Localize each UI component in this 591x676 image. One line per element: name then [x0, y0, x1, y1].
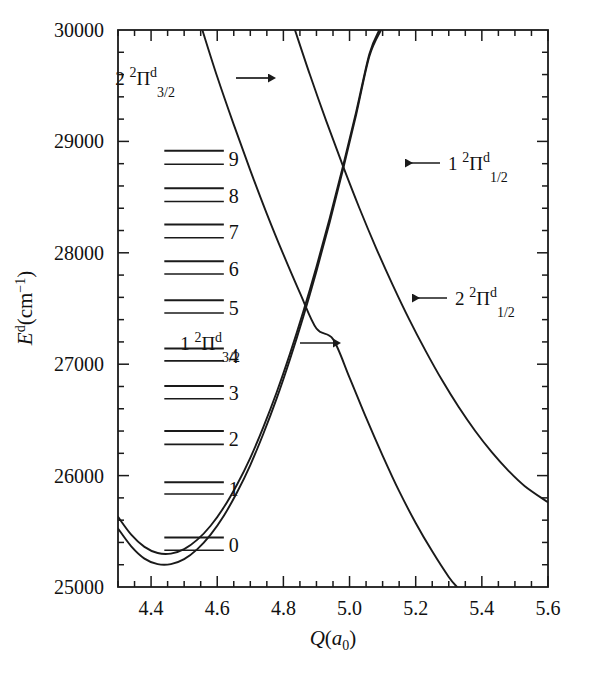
annotation-superscript-d: d — [483, 150, 490, 165]
x-axis-title-a: a — [332, 626, 343, 650]
annotation-pi-glyph: Π — [476, 288, 490, 309]
x-axis-title-paren-open: ( — [325, 626, 332, 650]
x-tick-label: 5.2 — [403, 597, 428, 619]
y-tick-label: 25000 — [54, 576, 104, 598]
vibrational-level-label: 8 — [229, 185, 239, 207]
vibrational-level-label: 6 — [229, 258, 239, 280]
x-tick-label: 5.4 — [469, 597, 494, 619]
y-axis-title-cm: (cm — [13, 293, 37, 326]
vibrational-level-label: 5 — [229, 297, 239, 319]
y-axis-title-sup-d: d — [13, 325, 28, 332]
annotation-multiplicity: 2 — [194, 330, 201, 345]
y-axis-title-sup-minus1: −1 — [13, 278, 28, 293]
annotation-multiplicity: 2 — [462, 150, 469, 165]
vibrational-level-label: 1 — [229, 478, 239, 500]
potential-energy-curve-chart: 0123456789 4.44.64.85.05.25.45.625000260… — [0, 0, 591, 676]
x-tick-label: 4.8 — [271, 597, 296, 619]
annotation-pi-glyph: Π — [469, 153, 483, 174]
annotation-multiplicity: 2 — [129, 65, 136, 80]
y-axis-title-paren-close: ) — [13, 271, 37, 278]
vibrational-level-label: 3 — [229, 382, 239, 404]
y-tick-label: 27000 — [54, 353, 104, 375]
annotation-state-number: 1 — [448, 153, 462, 174]
x-tick-label: 4.4 — [139, 597, 164, 619]
figure-container: 0123456789 4.44.64.85.05.25.45.625000260… — [0, 0, 591, 676]
x-tick-label: 5.6 — [536, 597, 561, 619]
x-axis-title-paren-close: ) — [349, 626, 356, 650]
annotation-multiplicity: 2 — [469, 285, 476, 300]
x-axis-title-sub: 0 — [342, 638, 349, 653]
x-tick-label: 4.6 — [205, 597, 230, 619]
x-axis-title: Q(a0) — [310, 626, 357, 653]
annotation-state-number: 1 — [180, 333, 194, 354]
y-tick-label: 26000 — [54, 465, 104, 487]
annotation-omega-subscript: 1/2 — [490, 170, 508, 185]
x-tick-label: 5.0 — [337, 597, 362, 619]
y-tick-label: 28000 — [54, 242, 104, 264]
annotation-pi-glyph: Π — [136, 68, 150, 89]
annotation-omega-subscript: 3/2 — [157, 85, 175, 100]
annotation-superscript-d: d — [215, 330, 222, 345]
annotation-omega-subscript: 3/2 — [222, 350, 240, 365]
vibrational-level-label: 0 — [229, 534, 239, 556]
y-tick-label: 29000 — [54, 130, 104, 152]
y-axis-title-e: E — [13, 332, 37, 346]
annotation-superscript-d: d — [490, 285, 497, 300]
y-tick-label: 30000 — [54, 19, 104, 41]
annotation-pi-glyph: Π — [201, 333, 215, 354]
annotation-superscript-d: d — [150, 65, 157, 80]
annotation-state-number: 2 — [455, 288, 469, 309]
vibrational-level-label: 2 — [229, 428, 239, 450]
vibrational-level-label: 9 — [229, 148, 239, 170]
vibrational-level-label: 7 — [229, 221, 239, 243]
annotation-omega-subscript: 1/2 — [497, 305, 515, 320]
x-axis-title-q: Q — [310, 626, 325, 650]
